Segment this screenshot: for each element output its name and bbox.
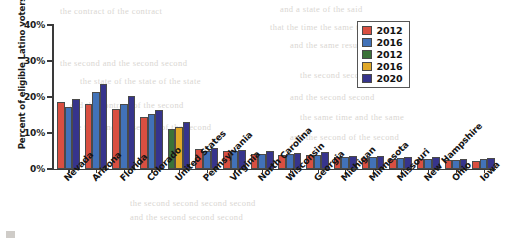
plot-area xyxy=(53,25,496,169)
bar xyxy=(100,84,108,169)
bar-group xyxy=(85,25,108,169)
y-axis-title: Percent of eligible Latino voters xyxy=(17,0,27,153)
legend-swatch-icon xyxy=(362,38,372,48)
bar-group xyxy=(140,25,163,169)
y-tick-label: 30% xyxy=(24,56,45,66)
legend-swatch-icon xyxy=(362,26,372,36)
bleed-text-line: the second second second second xyxy=(130,198,256,208)
legend-item: 2016 xyxy=(362,61,403,72)
legend-item: 2016 xyxy=(362,37,403,48)
legend-label: 2012 xyxy=(377,25,403,36)
y-tick-mark xyxy=(47,96,52,97)
bar-group xyxy=(417,25,440,169)
y-tick-label: 10% xyxy=(24,128,45,138)
legend-item: 2012 xyxy=(362,49,403,60)
legend-label: 2016 xyxy=(377,37,403,48)
y-tick-label-wrap: 0% xyxy=(8,164,45,174)
bar-group xyxy=(112,25,135,169)
bleed-text-line: and the second second second xyxy=(130,212,243,222)
legend-label: 2016 xyxy=(377,61,403,72)
bar-group xyxy=(472,25,495,169)
bar xyxy=(65,107,73,169)
bar xyxy=(128,96,136,169)
bar-group xyxy=(334,25,357,169)
bar xyxy=(120,104,128,169)
y-tick-mark xyxy=(47,24,52,25)
bar xyxy=(472,161,480,169)
bar xyxy=(57,102,65,169)
y-tick-label: 20% xyxy=(24,92,45,102)
chart-legend: 20122016201220162020 xyxy=(357,21,410,88)
latino-voters-bar-chart: the contract of the contractand a state … xyxy=(0,0,511,242)
page-corner-mark xyxy=(6,231,15,238)
y-tick-mark xyxy=(47,60,52,61)
y-tick-mark xyxy=(47,132,52,133)
legend-swatch-icon xyxy=(362,74,372,84)
legend-label: 2020 xyxy=(377,73,403,84)
legend-swatch-icon xyxy=(362,62,372,72)
bar xyxy=(148,114,156,169)
legend-label: 2012 xyxy=(377,49,403,60)
legend-item: 2012 xyxy=(362,25,403,36)
y-tick-mark xyxy=(47,168,52,169)
legend-item: 2020 xyxy=(362,73,403,84)
legend-swatch-icon xyxy=(362,50,372,60)
bar-group xyxy=(251,25,274,169)
y-tick-label: 0% xyxy=(30,164,45,174)
bleed-text-line: and a state of the said xyxy=(280,4,363,14)
bar-group xyxy=(57,25,80,169)
y-tick-label: 40% xyxy=(24,20,45,30)
bleed-text-line: the contract of the contract xyxy=(60,6,162,16)
